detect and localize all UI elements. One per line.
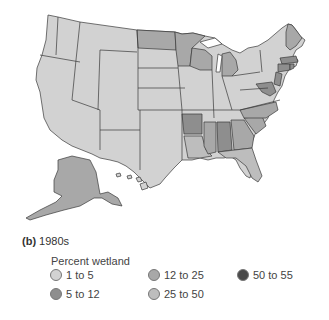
caption-text: 1980s [39,235,69,247]
caption-label: (b) [22,235,36,247]
map-state-alaska [26,156,122,220]
legend-swatch [237,269,249,281]
map-state-mississippi [204,122,216,154]
legend-swatch [50,269,62,281]
legend-swatch [148,288,160,300]
map-state-arkansas [182,114,202,134]
legend-item-25-to-50: 25 to 50 [148,288,204,300]
us-wetland-map [0,0,329,245]
figure-caption: (b) 1980s [22,235,69,247]
legend-label: 50 to 55 [253,269,293,281]
legend-swatch [50,288,62,300]
legend-swatch [148,269,160,281]
map-state-north-dakota [137,30,176,50]
map-state-alabama [217,122,232,152]
legend-label: 5 to 12 [66,288,100,300]
map-state-rhode-island [290,64,294,70]
legend-item-1-to-5: 1 to 5 [50,269,94,281]
legend-title: Percent wetland [51,255,130,267]
legend-item-5-to-12: 5 to 12 [50,288,100,300]
legend-item-12-to-25: 12 to 25 [148,269,204,281]
legend-label: 1 to 5 [66,269,94,281]
legend-item-50-to-55: 50 to 55 [237,269,293,281]
legend-label: 25 to 50 [164,288,204,300]
legend-label: 12 to 25 [164,269,204,281]
